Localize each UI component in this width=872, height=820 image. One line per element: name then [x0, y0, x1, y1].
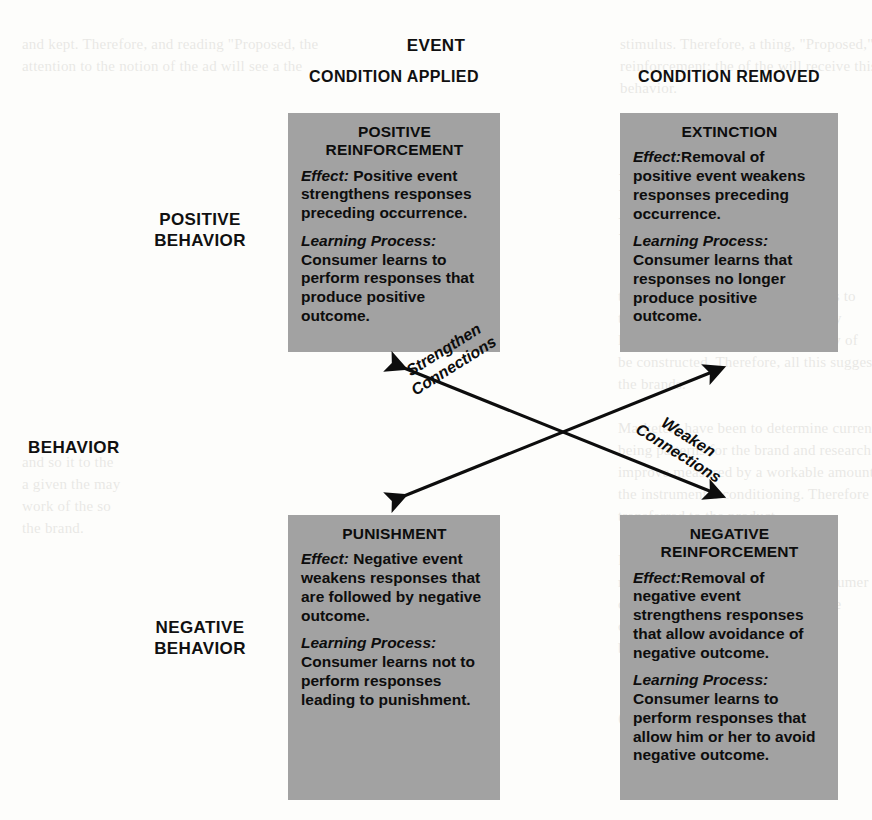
quadrant-punishment-effect: Effect: Negative event weakens responses…: [301, 550, 488, 625]
quadrant-title-line2: REINFORCEMENT: [633, 543, 826, 561]
quadrant-title-line1: PUNISHMENT: [301, 525, 488, 543]
connection-label-weaken: Weaken Connections: [632, 404, 734, 487]
process-text: Consumer learns that responses no longer…: [633, 251, 792, 324]
process-text: Consumer learns to perform responses tha…: [633, 690, 816, 763]
quadrant-negative-reinforcement-effect: Effect:Removal of negative event strengt…: [633, 569, 826, 663]
quadrant-positive-reinforcement-process: Learning Process: Consumer learns to per…: [301, 232, 488, 326]
process-label: Learning Process:: [633, 232, 768, 249]
effect-label: Effect:: [301, 167, 349, 184]
quadrant-title-line1: POSITIVE: [301, 123, 488, 141]
event-axis-label: EVENT: [0, 36, 872, 56]
quadrant-negative-reinforcement-process: Learning Process: Consumer learns to per…: [633, 671, 826, 765]
effect-label: Effect:: [633, 148, 681, 165]
effect-label: Effect:: [633, 569, 681, 586]
row-label-negative-behavior-line2: BEHAVIOR: [120, 639, 280, 660]
row-label-positive-behavior-line1: POSITIVE: [120, 210, 280, 231]
quadrant-extinction-effect: Effect:Removal of positive event weakens…: [633, 148, 826, 223]
behavior-axis-label: BEHAVIOR: [28, 438, 120, 458]
row-label-positive-behavior-line2: BEHAVIOR: [120, 231, 280, 252]
column-header-condition-applied: CONDITION APPLIED: [288, 68, 500, 86]
quadrant-positive-reinforcement-title: POSITIVE REINFORCEMENT: [301, 123, 488, 160]
quadrant-negative-reinforcement-title: NEGATIVE REINFORCEMENT: [633, 525, 826, 562]
quadrant-negative-reinforcement: NEGATIVE REINFORCEMENT Effect:Removal of…: [620, 515, 838, 800]
quadrant-extinction-process: Learning Process: Consumer learns that r…: [633, 232, 826, 326]
process-text: Consumer learns to perform responses tha…: [301, 251, 474, 324]
learning-matrix-diagram: EVENT CONDITION APPLIED CONDITION REMOVE…: [0, 0, 872, 820]
quadrant-title-line1: EXTINCTION: [633, 123, 826, 141]
quadrant-punishment-process: Learning Process: Consumer learns not to…: [301, 634, 488, 709]
quadrant-extinction: EXTINCTION Effect:Removal of positive ev…: [620, 113, 838, 352]
quadrant-title-line1: NEGATIVE: [633, 525, 826, 543]
row-label-negative-behavior-line1: NEGATIVE: [120, 618, 280, 639]
process-label: Learning Process:: [301, 634, 436, 651]
effect-label: Effect:: [301, 550, 349, 567]
quadrant-punishment: PUNISHMENT Effect: Negative event weaken…: [288, 515, 500, 800]
row-label-positive-behavior: POSITIVE BEHAVIOR: [120, 210, 280, 251]
quadrant-title-line2: REINFORCEMENT: [301, 141, 488, 159]
process-label: Learning Process:: [301, 232, 436, 249]
process-label: Learning Process:: [633, 671, 768, 688]
quadrant-extinction-title: EXTINCTION: [633, 123, 826, 141]
row-label-negative-behavior: NEGATIVE BEHAVIOR: [120, 618, 280, 659]
process-text: Consumer learns not to perform responses…: [301, 653, 475, 708]
quadrant-punishment-title: PUNISHMENT: [301, 525, 488, 543]
column-header-condition-removed: CONDITION REMOVED: [620, 68, 838, 86]
quadrant-positive-reinforcement: POSITIVE REINFORCEMENT Effect: Positive …: [288, 113, 500, 352]
quadrant-positive-reinforcement-effect: Effect: Positive event strengthens respo…: [301, 167, 488, 223]
